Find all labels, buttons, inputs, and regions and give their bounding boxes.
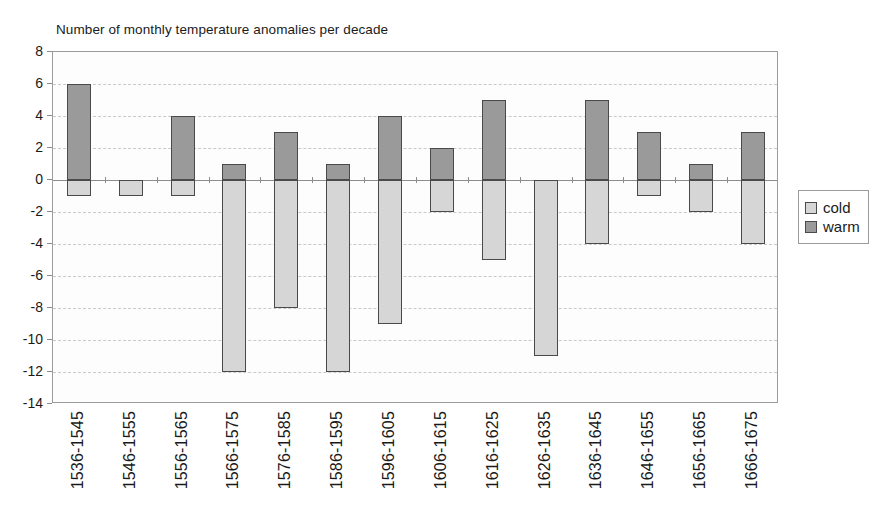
x-label-slot: 1646-1655: [622, 403, 674, 531]
y-tick-label: -6: [31, 267, 43, 283]
bar-group[interactable]: [105, 52, 157, 402]
x-tick-label: 1636-1645: [587, 411, 605, 489]
x-tick-label: 1586-1595: [328, 411, 346, 489]
bar-warm[interactable]: [585, 100, 609, 180]
bar-cold[interactable]: [67, 180, 91, 196]
bar-warm[interactable]: [326, 164, 350, 180]
x-tick-label: 1546-1555: [121, 411, 139, 489]
bar-warm[interactable]: [637, 132, 661, 180]
bar-cold[interactable]: [585, 180, 609, 244]
bar-group[interactable]: [364, 52, 416, 402]
y-axis: 86420-2-4-6-8-10-12-14: [0, 51, 52, 403]
chart-title: Number of monthly temperature anomalies …: [56, 22, 388, 37]
bar-warm[interactable]: [741, 132, 765, 180]
bar-group[interactable]: [675, 52, 727, 402]
bar-cold[interactable]: [274, 180, 298, 308]
x-tick-label: 1626-1635: [536, 411, 554, 489]
bar-warm[interactable]: [482, 100, 506, 180]
x-label-slot: 1606-1615: [415, 403, 467, 531]
bar-cold[interactable]: [119, 180, 143, 196]
bar-cold[interactable]: [482, 180, 506, 260]
y-tick-label: -12: [23, 363, 43, 379]
bar-warm[interactable]: [274, 132, 298, 180]
bar-group[interactable]: [623, 52, 675, 402]
bar-group[interactable]: [727, 52, 779, 402]
x-tick-label: 1596-1605: [380, 411, 398, 489]
x-label-slot: 1616-1625: [467, 403, 519, 531]
bar-cold[interactable]: [430, 180, 454, 212]
bar-group[interactable]: [157, 52, 209, 402]
y-tick-label: 6: [35, 75, 43, 91]
bar-cold[interactable]: [378, 180, 402, 324]
x-label-slot: 1656-1665: [674, 403, 726, 531]
x-tick-label: 1606-1615: [432, 411, 450, 489]
x-label-slot: 1576-1585: [259, 403, 311, 531]
x-tick-label: 1656-1665: [691, 411, 709, 489]
x-tick-label: 1666-1675: [743, 411, 761, 489]
legend-label-cold: cold: [823, 199, 851, 216]
bar-group[interactable]: [260, 52, 312, 402]
y-tick-label: 0: [35, 171, 43, 187]
chart-legend: cold warm: [798, 190, 869, 244]
x-label-slot: 1566-1575: [208, 403, 260, 531]
x-label-slot: 1546-1555: [104, 403, 156, 531]
y-tick-label: -8: [31, 299, 43, 315]
bar-warm[interactable]: [67, 84, 91, 180]
bar-cold[interactable]: [222, 180, 246, 372]
x-tick-label: 1566-1575: [224, 411, 242, 489]
legend-item-cold[interactable]: cold: [805, 199, 860, 216]
plot-inner: [53, 52, 777, 402]
bar-group[interactable]: [53, 52, 105, 402]
bar-cold[interactable]: [534, 180, 558, 356]
bar-warm[interactable]: [222, 164, 246, 180]
x-tick-label: 1646-1655: [639, 411, 657, 489]
legend-item-warm[interactable]: warm: [805, 218, 860, 235]
bar-warm[interactable]: [689, 164, 713, 180]
y-tick-label: 4: [35, 107, 43, 123]
bar-warm[interactable]: [171, 116, 195, 180]
bar-group[interactable]: [520, 52, 572, 402]
y-tick-label: 2: [35, 139, 43, 155]
x-tick-label: 1576-1585: [276, 411, 294, 489]
bar-group[interactable]: [572, 52, 624, 402]
y-tick-label: -2: [31, 203, 43, 219]
bar-cold[interactable]: [637, 180, 661, 196]
plot-area: [52, 51, 778, 403]
x-label-slot: 1666-1675: [726, 403, 778, 531]
x-tick-label: 1536-1545: [69, 411, 87, 489]
y-tick-label: 8: [35, 43, 43, 59]
x-tick-label: 1556-1565: [173, 411, 191, 489]
y-tick-label: -4: [31, 235, 43, 251]
bar-group[interactable]: [312, 52, 364, 402]
bar-cold[interactable]: [689, 180, 713, 212]
bar-cold[interactable]: [326, 180, 350, 372]
chart-figure: Number of monthly temperature anomalies …: [0, 0, 886, 531]
x-label-slot: 1536-1545: [52, 403, 104, 531]
bar-cold[interactable]: [741, 180, 765, 244]
bar-group[interactable]: [209, 52, 261, 402]
y-tick-label: -10: [23, 331, 43, 347]
x-axis: 1536-15451546-15551556-15651566-15751576…: [52, 403, 778, 531]
bar-group[interactable]: [468, 52, 520, 402]
x-label-slot: 1636-1645: [571, 403, 623, 531]
x-tick-label: 1616-1625: [484, 411, 502, 489]
x-label-slot: 1586-1595: [311, 403, 363, 531]
legend-label-warm: warm: [823, 218, 860, 235]
x-label-slot: 1556-1565: [156, 403, 208, 531]
legend-swatch-warm-icon: [805, 221, 817, 233]
bar-group[interactable]: [416, 52, 468, 402]
x-label-slot: 1596-1605: [363, 403, 415, 531]
bar-cold[interactable]: [171, 180, 195, 196]
y-tick-label: -14: [23, 395, 43, 411]
bar-warm[interactable]: [430, 148, 454, 180]
legend-swatch-cold-icon: [805, 202, 817, 214]
bar-warm[interactable]: [378, 116, 402, 180]
x-label-slot: 1626-1635: [519, 403, 571, 531]
